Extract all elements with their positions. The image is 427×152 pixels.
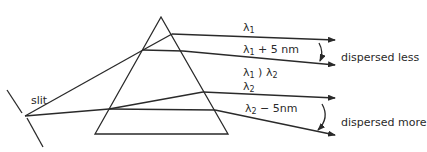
dispersion-arrow-less bbox=[319, 43, 322, 61]
incoming-ray-lower bbox=[25, 109, 109, 116]
label-lambda2-minus-5nm: λ2 − 5nm bbox=[245, 103, 298, 118]
inner-ray-l1p5 bbox=[143, 50, 183, 51]
label-lambda2: λ2 bbox=[243, 81, 255, 96]
slit-label: slit bbox=[31, 95, 47, 107]
out-ray-l2 bbox=[203, 92, 335, 98]
slit-lower-jaw bbox=[27, 118, 43, 147]
inner-ray-l2m5 bbox=[109, 109, 215, 110]
slit-upper-jaw bbox=[7, 90, 22, 113]
prism bbox=[95, 17, 228, 134]
label-lambda1: λ1 bbox=[243, 22, 255, 37]
label-lambda1-plus-5nm: λ1 + 5 nm bbox=[243, 44, 299, 59]
dispersion-arrow-more bbox=[318, 104, 325, 130]
annotation-dispersed-more: dispersed more bbox=[341, 117, 427, 129]
annotation-dispersed-less: dispersed less bbox=[341, 52, 419, 64]
inner-ray-l2 bbox=[109, 92, 203, 109]
